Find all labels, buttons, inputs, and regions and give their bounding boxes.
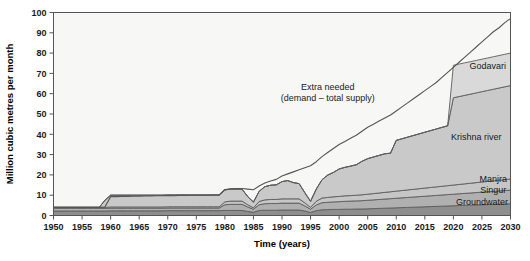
x-tick-label: 1960 — [101, 222, 121, 232]
y-tick-label: 60 — [36, 89, 46, 99]
x-tick-label: 2020 — [443, 222, 463, 232]
series-label-groundwater: Groundwater — [456, 197, 508, 207]
x-tick-label: 1975 — [186, 222, 206, 232]
x-tick-label: 2030 — [500, 222, 520, 232]
annotation-line-1: Extra needed — [301, 82, 355, 92]
x-axis-title: Time (years) — [254, 238, 310, 249]
y-tick-label: 20 — [36, 170, 46, 180]
y-tick-label: 90 — [36, 28, 46, 38]
y-tick-label: 40 — [36, 130, 46, 140]
x-tick-label: 1980 — [215, 222, 235, 232]
x-tick-label: 1970 — [158, 222, 178, 232]
y-tick-label: 80 — [36, 48, 46, 58]
x-tick-label: 2005 — [358, 222, 378, 232]
x-tick-label: 2025 — [472, 222, 492, 232]
y-tick-label: 0 — [41, 211, 46, 221]
y-tick-label: 30 — [36, 150, 46, 160]
x-tick-label: 1955 — [72, 222, 92, 232]
annotation-line-2: (demand – total supply) — [281, 93, 375, 103]
y-axis-title: Million cubic metres per month — [4, 44, 15, 185]
y-tick-label: 70 — [36, 69, 46, 79]
stacked-area-chart: 1950195519601965197019751980198519901995… — [0, 0, 530, 261]
x-tick-label: 2015 — [415, 222, 435, 232]
y-tick-label: 100 — [31, 8, 46, 18]
x-tick-label: 2010 — [386, 222, 406, 232]
x-tick-label: 1985 — [243, 222, 263, 232]
y-tick-label: 50 — [36, 109, 46, 119]
series-label-krishna-river: Krishna river — [451, 132, 502, 142]
x-tick-label: 1950 — [43, 222, 63, 232]
x-tick-label: 1995 — [301, 222, 321, 232]
y-tick-label: 10 — [36, 190, 46, 200]
series-label-manjra: Manjra — [480, 174, 508, 184]
x-tick-label: 1965 — [129, 222, 149, 232]
series-label-godavari: Godavari — [469, 61, 506, 71]
x-tick-label: 1990 — [272, 222, 292, 232]
x-tick-label: 2000 — [329, 222, 349, 232]
chart-container: 1950195519601965197019751980198519901995… — [0, 0, 530, 261]
series-label-singur: Singur — [480, 185, 506, 195]
